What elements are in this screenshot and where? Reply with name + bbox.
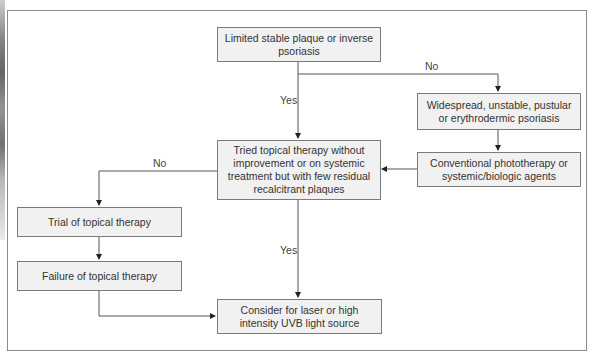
- node-widespread-psoriasis: Widespread, unstable, pustular or erythr…: [417, 93, 581, 130]
- edge-label-yes-start: Yes: [280, 94, 297, 106]
- node-label: Conventional phototherapy or systemic/bi…: [424, 157, 574, 183]
- node-limited-stable-plaque: Limited stable plaque or inverse psorias…: [217, 27, 381, 62]
- node-label: Limited stable plaque or inverse psorias…: [224, 32, 374, 58]
- edge-label-yes-tried: Yes: [280, 244, 297, 256]
- node-failure-topical-therapy: Failure of topical therapy: [17, 261, 182, 291]
- arrow-tried-to-trial: [99, 171, 217, 205]
- node-conventional-phototherapy: Conventional phototherapy or systemic/bi…: [417, 152, 581, 187]
- node-label: Trial of topical therapy: [48, 216, 151, 229]
- arrow-start-to-widespread: [298, 74, 498, 91]
- edge-label-no-start: No: [425, 60, 438, 72]
- edge-label-no-tried: No: [153, 157, 166, 169]
- node-label: Failure of topical therapy: [42, 270, 157, 283]
- node-label: Widespread, unstable, pustular or erythr…: [424, 99, 574, 125]
- node-label: Consider for laser or high intensity UVB…: [224, 304, 375, 330]
- node-label: Tried topical therapy without improvemen…: [224, 144, 374, 196]
- node-consider-laser-uvb: Consider for laser or high intensity UVB…: [217, 299, 382, 334]
- arrow-failure-to-consider: [99, 290, 215, 316]
- node-trial-topical-therapy: Trial of topical therapy: [17, 207, 182, 237]
- node-tried-topical-therapy: Tried topical therapy without improvemen…: [217, 140, 381, 200]
